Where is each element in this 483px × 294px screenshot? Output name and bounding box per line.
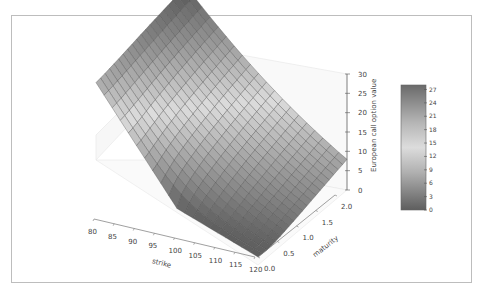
maturity-tick-label: 0.0 xyxy=(264,265,275,273)
strike-tick-label: 120 xyxy=(249,266,262,274)
colorbar-tick-label: 12 xyxy=(429,152,437,159)
colorbar-tick-label: 6 xyxy=(429,179,433,186)
value-axis: 051015202530 European call option value xyxy=(345,71,378,195)
strike-axis-label: strike xyxy=(151,257,172,269)
colorbar-gradient xyxy=(401,85,426,210)
surface-plot: 80859095100105110115120 strike 0.00.51.0… xyxy=(0,0,483,294)
value-tick-label: 10 xyxy=(358,148,367,156)
strike-tick-label: 100 xyxy=(169,247,182,255)
maturity-axis-label: maturity xyxy=(311,234,340,259)
maturity-tick-label: 2.0 xyxy=(341,203,352,211)
strike-tick-label: 110 xyxy=(209,257,222,265)
value-axis-label: European call option value xyxy=(370,79,378,172)
colorbar-tick-label: 15 xyxy=(429,139,437,146)
colorbar-tick-label: 3 xyxy=(429,193,433,200)
strike-tick-label: 105 xyxy=(189,252,202,260)
value-tick-label: 5 xyxy=(358,167,362,175)
colorbar-tick-label: 0 xyxy=(429,206,433,213)
colorbar: 0369121518212427 xyxy=(401,85,437,213)
strike-tick-label: 95 xyxy=(148,242,157,250)
colorbar-tick-label: 21 xyxy=(429,112,437,119)
maturity-tick-label: 1.0 xyxy=(303,234,314,242)
strike-tick-label: 80 xyxy=(88,228,97,236)
colorbar-tick-label: 18 xyxy=(429,126,437,133)
strike-tick-label: 85 xyxy=(108,233,117,241)
colorbar-tick-label: 24 xyxy=(429,99,437,106)
strike-tick-label: 90 xyxy=(128,238,137,246)
value-tick-label: 30 xyxy=(358,71,367,79)
value-tick-label: 15 xyxy=(358,129,367,137)
value-tick-label: 0 xyxy=(358,187,362,195)
strike-tick-label: 115 xyxy=(229,261,242,269)
colorbar-tick-label: 27 xyxy=(429,86,437,93)
maturity-tick-label: 1.5 xyxy=(322,219,333,227)
colorbar-tick-label: 9 xyxy=(429,166,433,173)
value-tick-label: 25 xyxy=(358,90,367,98)
value-tick-label: 20 xyxy=(358,109,367,117)
maturity-tick-label: 0.5 xyxy=(283,250,294,258)
